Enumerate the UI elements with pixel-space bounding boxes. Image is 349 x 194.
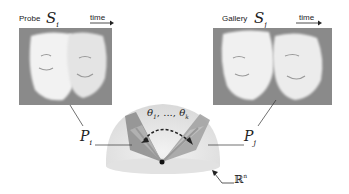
gallery-subspace-label: Pj (244, 128, 256, 147)
ambient-space-label: ℝn (234, 172, 247, 186)
subspace-manifold-diagram (0, 0, 349, 194)
angles-label: θ1, ..., θk (147, 107, 189, 120)
origin-dot (160, 160, 165, 165)
probe-subspace-label: Pi (80, 128, 92, 147)
